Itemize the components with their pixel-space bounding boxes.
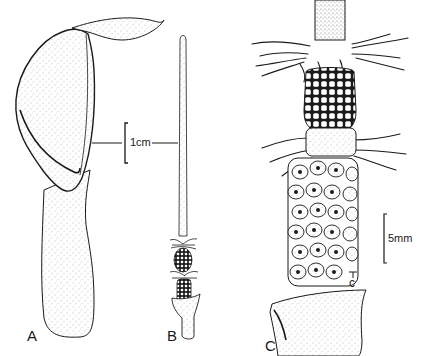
annotation-label-c: c	[349, 277, 355, 289]
appendix-stem	[315, 0, 345, 40]
scale-bar-5mm	[384, 214, 387, 263]
scale-label-5mm: 5mm	[388, 233, 412, 244]
male-flower-zone-detail	[304, 68, 356, 129]
panel-label-c: C	[265, 338, 276, 353]
scale-label-1cm: 1cm	[130, 137, 151, 148]
panel-b-spadix	[170, 36, 200, 340]
spathe-tube	[42, 170, 94, 337]
panel-label-b: B	[167, 328, 177, 343]
panel-c-spadix-detail	[252, 0, 408, 356]
female-flower-zone-detail	[288, 158, 358, 286]
panel-label-a: A	[27, 328, 37, 343]
spathe-blade	[16, 29, 95, 191]
panel-a-spathe	[16, 18, 164, 337]
spathe-base-fragment	[270, 290, 366, 356]
illustration	[0, 0, 422, 356]
male-flower-zone	[174, 248, 192, 272]
spadix-appendix	[179, 36, 187, 237]
